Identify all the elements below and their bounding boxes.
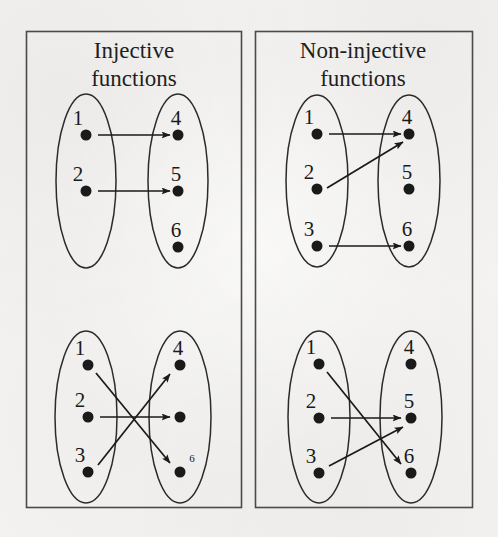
domain-node-label: 3 — [75, 443, 86, 467]
domain-node-dot[interactable] — [312, 241, 323, 252]
codomain-node-dot[interactable] — [404, 241, 415, 252]
codomain-node[interactable]: 5 — [171, 162, 184, 197]
mapping-diagram-non-injective-top: 123456 — [286, 95, 440, 267]
mapping-arrow-3-to-5 — [329, 427, 403, 466]
domain-node-label: 3 — [304, 217, 315, 241]
mapping-arrow-2-to-4 — [327, 142, 403, 188]
codomain-node-dot[interactable] — [404, 129, 415, 140]
domain-node[interactable]: 1 — [73, 106, 92, 141]
codomain-node-label: 5 — [404, 389, 415, 413]
codomain-node-dot[interactable] — [406, 413, 417, 424]
codomain-node-label: 4 — [402, 105, 413, 129]
panel-title-line: Non-injective — [300, 38, 426, 63]
codomain-node[interactable]: 6 — [402, 217, 415, 252]
domain-node[interactable]: 1 — [75, 336, 94, 371]
panel-left-column: Injectivefunctions1245612346 — [27, 32, 242, 508]
panel-title-line: functions — [91, 66, 177, 91]
domain-node-dot[interactable] — [83, 360, 94, 371]
domain-node-label: 1 — [306, 335, 317, 359]
domain-node[interactable]: 2 — [73, 162, 92, 197]
domain-node-dot[interactable] — [83, 467, 94, 478]
domain-node[interactable]: 3 — [306, 444, 325, 479]
domain-node-dot[interactable] — [81, 130, 92, 141]
panel-right-column: Non-injectivefunctions123456123456 — [256, 32, 473, 508]
codomain-node[interactable]: 6 — [404, 444, 417, 479]
domain-node-dot[interactable] — [312, 184, 323, 195]
codomain-node-label: 5 — [171, 162, 182, 186]
codomain-node-dot[interactable] — [406, 468, 417, 479]
codomain-node-label: 4 — [173, 336, 184, 360]
codomain-node[interactable] — [175, 412, 186, 423]
domain-node[interactable]: 1 — [306, 335, 325, 370]
domain-node[interactable]: 2 — [306, 389, 325, 424]
panels-layer: Injectivefunctions1245612346Non-injectiv… — [27, 32, 473, 508]
domain-node-dot[interactable] — [83, 412, 94, 423]
codomain-node[interactable]: 4 — [171, 106, 184, 141]
domain-node-label: 2 — [304, 160, 315, 184]
panel-title-line: Injective — [94, 38, 174, 63]
domain-node-dot[interactable] — [314, 359, 325, 370]
codomain-node-dot[interactable] — [173, 130, 184, 141]
codomain-node-dot[interactable] — [173, 242, 184, 253]
domain-node-label: 2 — [75, 388, 86, 412]
mapping-diagram-injective-top: 12456 — [56, 94, 208, 268]
domain-node[interactable]: 2 — [75, 388, 94, 423]
codomain-node[interactable]: 6 — [175, 452, 196, 478]
domain-node-label: 1 — [73, 106, 84, 130]
domain-node[interactable]: 3 — [75, 443, 94, 478]
codomain-node-dot[interactable] — [406, 359, 417, 370]
codomain-node-label: 4 — [171, 106, 182, 130]
codomain-node-dot[interactable] — [404, 184, 415, 195]
domain-node-label: 1 — [304, 105, 315, 129]
codomain-node[interactable]: 4 — [402, 105, 415, 140]
mapping-diagram-injective-bottom: 12346 — [55, 331, 211, 503]
domain-node[interactable]: 2 — [304, 160, 323, 195]
codomain-node[interactable]: 4 — [173, 336, 186, 371]
domain-node-dot[interactable] — [81, 186, 92, 197]
domain-node-dot[interactable] — [314, 413, 325, 424]
domain-node[interactable]: 1 — [304, 105, 323, 140]
codomain-node-dot[interactable] — [173, 186, 184, 197]
mapping-diagram-non-injective-bottom: 123456 — [288, 331, 442, 503]
codomain-node-label: 6 — [402, 217, 413, 241]
codomain-node[interactable]: 5 — [404, 389, 417, 424]
codomain-node-label: 6 — [404, 444, 415, 468]
panel-title-left-column: Injectivefunctions — [91, 38, 177, 91]
codomain-node[interactable]: 6 — [171, 218, 184, 253]
domain-node-label: 1 — [75, 336, 86, 360]
codomain-node-label: 4 — [404, 335, 415, 359]
codomain-node-label: 6 — [189, 452, 195, 464]
panel-title-right-column: Non-injectivefunctions — [300, 38, 426, 91]
codomain-node-dot[interactable] — [175, 467, 186, 478]
figure-root: Injectivefunctions1245612346Non-injectiv… — [0, 0, 498, 537]
codomain-node-dot[interactable] — [175, 412, 186, 423]
domain-node-label: 2 — [306, 389, 317, 413]
panel-border-left-column — [27, 32, 242, 508]
mapping-arrow-1-to-6 — [96, 373, 170, 463]
domain-node-label: 2 — [73, 162, 84, 186]
codomain-node-dot[interactable] — [175, 360, 186, 371]
codomain-node[interactable]: 5 — [402, 160, 415, 195]
panel-title-line: functions — [320, 66, 406, 91]
domain-node-dot[interactable] — [312, 129, 323, 140]
domain-node-label: 3 — [306, 444, 317, 468]
domain-set-ellipse — [56, 94, 116, 268]
codomain-node[interactable]: 4 — [404, 335, 417, 370]
codomain-node-label: 6 — [171, 218, 182, 242]
domain-node-dot[interactable] — [314, 468, 325, 479]
codomain-node-label: 5 — [402, 160, 413, 184]
domain-node[interactable]: 3 — [304, 217, 323, 252]
function-diagram-svg: Injectivefunctions1245612346Non-injectiv… — [0, 0, 498, 537]
